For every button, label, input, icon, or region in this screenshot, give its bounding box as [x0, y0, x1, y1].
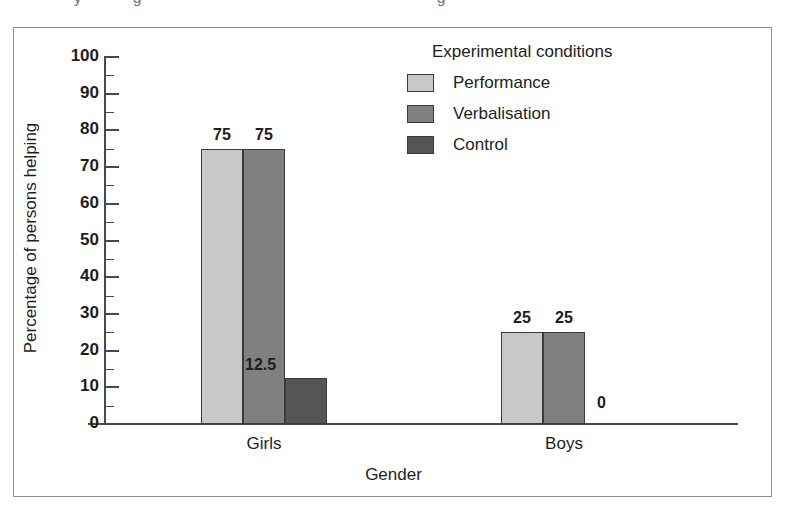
bar-value-label-girls-performance: 75 — [201, 126, 243, 144]
legend-rows: PerformanceVerbalisationControl — [407, 73, 707, 155]
bar-girls-control — [285, 378, 327, 424]
y-tick-label-70: 70 — [49, 156, 99, 176]
y-tick-minor-5 — [106, 406, 114, 407]
y-tick-minor-85 — [106, 112, 114, 113]
x-category-label-boys: Boys — [481, 434, 647, 454]
legend-item-verbalisation: Verbalisation — [407, 104, 707, 124]
legend: Experimental conditions PerformanceVerba… — [407, 42, 707, 166]
caption-fragment-3: g — [437, 0, 445, 6]
y-tick-minor-95 — [106, 75, 114, 76]
legend-label-verbalisation: Verbalisation — [453, 104, 550, 124]
y-tick-label-10: 10 — [49, 376, 99, 396]
y-tick-major-30 — [106, 313, 119, 315]
figure-frame: 0102030405060708090100 Percentage of per… — [13, 27, 772, 497]
y-tick-label-90: 90 — [49, 83, 99, 103]
y-tick-major-20 — [106, 350, 119, 352]
y-tick-major-50 — [106, 240, 119, 242]
legend-label-control: Control — [453, 135, 508, 155]
y-tick-minor-45 — [106, 259, 114, 260]
legend-label-performance: Performance — [453, 73, 550, 93]
legend-item-control: Control — [407, 135, 707, 155]
y-tick-label-80: 80 — [49, 119, 99, 139]
y-tick-major-60 — [106, 203, 119, 205]
x-axis-line — [88, 423, 738, 425]
y-tick-major-40 — [106, 276, 119, 278]
y-tick-minor-65 — [106, 185, 114, 186]
y-tick-minor-25 — [106, 332, 114, 333]
legend-swatch-control — [407, 136, 434, 154]
bar-chart-plot: 0102030405060708090100 Percentage of per… — [14, 28, 773, 498]
bar-value-label-boys-verbalisation: 25 — [543, 309, 585, 327]
bar-girls-verbalisation — [243, 149, 285, 424]
y-tick-major-70 — [106, 166, 119, 168]
y-tick-major-10 — [106, 386, 119, 388]
bar-value-label-girls-control: 12.5 — [245, 356, 276, 374]
bar-value-label-boys-control: 0 — [597, 394, 606, 412]
y-tick-label-0: 0 — [49, 413, 99, 433]
y-tick-label-40: 40 — [49, 266, 99, 286]
bar-girls-performance — [201, 149, 243, 424]
x-category-label-girls: Girls — [181, 434, 347, 454]
bar-boys-verbalisation — [543, 332, 585, 424]
y-tick-label-30: 30 — [49, 303, 99, 323]
legend-swatch-verbalisation — [407, 105, 434, 123]
caption-fragment-1: y — [74, 0, 82, 6]
caption-fragment-2: g — [133, 0, 141, 6]
y-tick-major-100 — [106, 56, 119, 58]
cut-off-caption-sliver: y g g — [0, 0, 785, 10]
y-tick-major-90 — [106, 93, 119, 95]
bar-boys-performance — [501, 332, 543, 424]
y-tick-minor-55 — [106, 222, 114, 223]
y-tick-major-0 — [106, 423, 119, 425]
y-tick-label-20: 20 — [49, 340, 99, 360]
legend-swatch-performance — [407, 74, 434, 92]
y-tick-major-80 — [106, 129, 119, 131]
y-tick-label-60: 60 — [49, 193, 99, 213]
y-tick-minor-15 — [106, 369, 114, 370]
y-tick-label-50: 50 — [49, 230, 99, 250]
y-axis-title: Percentage of persons helping — [21, 73, 41, 403]
legend-item-performance: Performance — [407, 73, 707, 93]
legend-title: Experimental conditions — [432, 42, 707, 62]
y-tick-minor-35 — [106, 296, 114, 297]
y-tick-minor-75 — [106, 149, 114, 150]
bar-value-label-girls-verbalisation: 75 — [243, 126, 285, 144]
bar-value-label-boys-performance: 25 — [501, 309, 543, 327]
x-axis-title: Gender — [14, 465, 773, 485]
y-tick-label-100: 100 — [49, 46, 99, 66]
